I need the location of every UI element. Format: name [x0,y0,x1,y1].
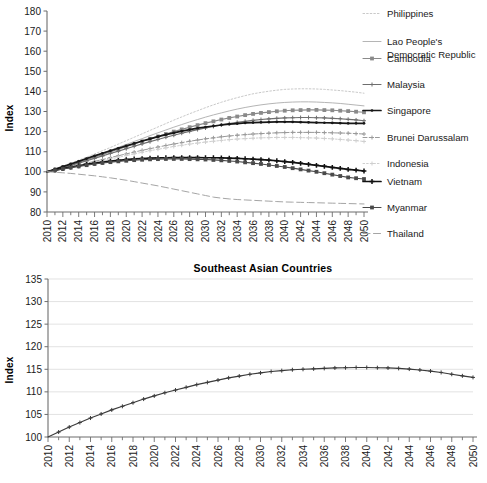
x-tick-label: 2032 [276,445,287,468]
x-tick-label: 2012 [64,445,75,468]
bottom-series-lines [48,365,475,437]
legend-marker-icon [371,109,374,112]
x-tick-label: 2038 [340,445,351,468]
x-tick-label: 2040 [279,220,290,243]
legend-item-brunei-darussalam[interactable]: Brunei Darussalam [363,132,469,143]
legend-label: Cambodia [387,53,431,64]
legend-item-myanmar[interactable]: Myanmar [363,202,428,213]
legend-marker-icon [370,162,374,166]
x-tick-label: 2036 [248,220,259,243]
y-tick-label: 100 [24,166,41,177]
y-tick-label: 100 [25,432,42,443]
legend-item-malaysia[interactable]: Malaysia [363,79,426,90]
series-southeast-asian-countries [48,365,475,437]
legend-marker-icon [370,179,375,184]
top-chart-svg: 8090100110120130140150160170180 20102012… [0,0,487,255]
legend-label: Malaysia [387,79,426,90]
legend-label: Myanmar [387,202,428,213]
y-tick-label: 180 [24,6,41,17]
y-tick-label: 125 [25,319,42,330]
x-tick-label: 2044 [404,445,415,468]
y-tick-label: 90 [30,187,42,198]
legend-item-indonesia[interactable]: Indonesia [363,158,429,169]
y-tick-label: 135 [25,274,42,285]
legend-item-singapore[interactable]: Singapore [363,105,431,116]
x-tick-label: 2038 [264,220,275,243]
x-tick-label: 2026 [168,220,179,243]
x-tick-label: 2036 [319,445,330,468]
x-tick-label: 2044 [311,220,322,243]
legend-item-philippines[interactable]: Philippines [363,8,434,19]
bottom-y-axis-title: Index [4,356,15,383]
top-series-lines [47,89,366,204]
y-tick-label: 110 [26,386,42,397]
x-tick-label: 2034 [298,445,309,468]
y-tick-label: 140 [24,86,41,97]
legend-label: Indonesia [387,158,429,169]
x-tick-label: 2012 [57,220,68,243]
x-tick-label: 2050 [468,445,479,468]
x-tick-label: 2040 [361,445,372,468]
figure-container: 8090100110120130140150160170180 20102012… [0,0,487,483]
x-tick-label: 2016 [106,445,117,468]
y-tick-label: 150 [24,66,41,77]
bottom-x-tick-labels: 2010201220142016201820202022202420262028… [43,445,479,468]
x-tick-label: 2030 [200,220,211,243]
legend-marker-icon [370,136,374,140]
legend-label: Lao People's [387,36,442,47]
x-tick-label: 2010 [43,445,54,468]
x-tick-label: 2016 [89,220,100,243]
x-tick-label: 2014 [85,445,96,468]
bottom-axes [45,279,478,442]
legend-label: Vietnam [387,176,422,187]
x-tick-label: 2010 [42,220,53,243]
legend-item-vietnam[interactable]: Vietnam [363,176,422,187]
y-tick-label: 120 [25,341,42,352]
legend-label: Singapore [387,105,431,116]
legend-item-cambodia[interactable]: Cambodia [363,53,431,64]
y-tick-label: 160 [24,46,41,57]
x-tick-label: 2046 [425,445,436,468]
y-tick-label: 80 [30,207,42,218]
x-tick-label: 2024 [153,220,164,243]
x-tick-label: 2020 [121,220,132,243]
x-tick-label: 2022 [170,445,181,468]
legend-label: Brunei Darussalam [387,132,469,143]
x-tick-label: 2034 [232,220,243,243]
y-tick-label: 110 [25,146,41,157]
bottom-chart-svg: Southeast Asian Countries 10010511011512… [0,255,487,483]
y-tick-label: 105 [25,409,42,420]
legend-marker-icon [370,83,374,87]
x-tick-label: 2032 [216,220,227,243]
x-tick-label: 2014 [73,220,84,243]
legend-marker-icon [370,206,374,210]
bottom-y-tick-labels: 100105110115120125130135 [25,274,42,443]
top-chart-panel: 8090100110120130140150160170180 20102012… [0,0,487,255]
bottom-gridlines [48,279,473,414]
x-tick-label: 2042 [383,445,394,468]
x-tick-label: 2020 [149,445,160,468]
top-y-axis-title: Index [4,104,15,131]
y-tick-label: 130 [24,106,41,117]
series-thailand [47,172,364,204]
bottom-chart-panel: Southeast Asian Countries 10010511011512… [0,255,487,483]
x-tick-label: 2050 [359,220,370,243]
y-tick-label: 130 [25,296,42,307]
top-axes [44,11,369,217]
x-tick-label: 2028 [184,220,195,243]
x-tick-label: 2024 [191,445,202,468]
y-tick-label: 170 [24,26,41,37]
legend-item-thailand[interactable]: Thailand [363,228,424,239]
top-y-tick-labels: 8090100110120130140150160170180 [24,6,41,218]
x-tick-label: 2046 [327,220,338,243]
x-tick-label: 2042 [295,220,306,243]
legend-label: Thailand [387,228,424,239]
x-tick-label: 2026 [213,445,224,468]
top-legend: PhilippinesLao People'sDemocratic Republ… [363,8,476,239]
x-tick-label: 2018 [105,220,116,243]
x-tick-label: 2048 [446,445,457,468]
top-x-tick-labels: 2010201220142016201820202022202420262028… [42,220,370,243]
legend-marker-icon [370,57,374,61]
x-tick-label: 2028 [234,445,245,468]
bottom-chart-title: Southeast Asian Countries [194,262,333,274]
